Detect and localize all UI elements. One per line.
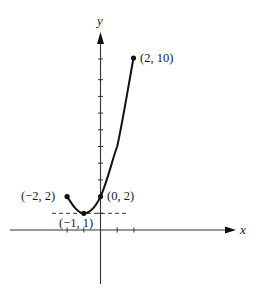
y-axis-arrow-icon bbox=[97, 32, 104, 44]
point-neg2-2 bbox=[65, 194, 70, 199]
point-2-10 bbox=[131, 55, 136, 60]
label-point-neg2-2: (−2, 2) bbox=[21, 189, 55, 203]
y-axis-label: y bbox=[95, 13, 103, 28]
label-point-neg1-1: (−1, 1) bbox=[59, 216, 93, 230]
label-point-2-10: (2, 10) bbox=[140, 51, 173, 65]
x-axis-label: x bbox=[239, 222, 246, 237]
label-point-0-2: (0, 2) bbox=[107, 189, 134, 203]
point-0-2 bbox=[98, 194, 103, 199]
function-graph: x y (−2, 2) (−1, 1) (0, 2) (2, 10) bbox=[0, 0, 256, 295]
x-axis-arrow-icon bbox=[225, 227, 236, 234]
